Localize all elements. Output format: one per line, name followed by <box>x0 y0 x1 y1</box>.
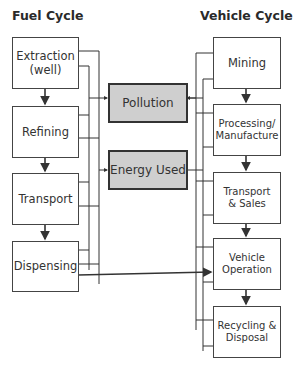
output-energy-used: Energy Used <box>108 150 188 190</box>
output-pollution: Pollution <box>108 83 188 123</box>
fuel-stage-transport: Transport <box>12 173 79 225</box>
vehicle-stage-mining: Mining <box>213 37 281 89</box>
vehicle-stage-transport-sales: Transport & Sales <box>213 172 281 224</box>
fuel-stage-refining: Refining <box>12 106 79 158</box>
fuel-stage-dispensing: Dispensing <box>12 241 79 292</box>
vehicle-stage-operation: Vehicle Operation <box>213 238 281 290</box>
vehicle-stage-recycling: Recycling & Disposal <box>213 306 281 358</box>
fuel-stage-extraction: Extraction (well) <box>12 37 79 89</box>
vehicle-stage-processing: Processing/ Manufacture <box>213 104 281 156</box>
